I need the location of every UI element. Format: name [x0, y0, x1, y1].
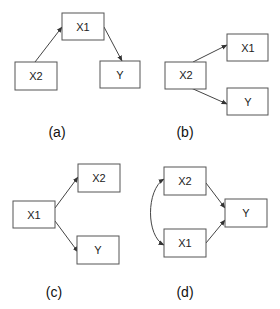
node-label: Y — [244, 96, 252, 108]
caption-c: (c) — [46, 284, 62, 300]
caption-d: (d) — [176, 284, 193, 300]
node-label: X1 — [76, 21, 89, 33]
node-label: X1 — [27, 209, 40, 221]
edge-x1-x2-correlation — [151, 179, 165, 245]
node-x1: X1 — [13, 201, 55, 228]
node-label: X2 — [178, 175, 191, 187]
node-y: Y — [77, 236, 119, 264]
node-label: Y — [116, 69, 124, 81]
node-label: Y — [94, 244, 102, 256]
node-y: Y — [225, 199, 267, 227]
edge-x2-to-y — [191, 88, 227, 104]
node-label: X2 — [92, 172, 105, 184]
node-label: X2 — [179, 69, 192, 81]
node-label: X1 — [178, 237, 191, 249]
node-x2: X2 — [78, 164, 120, 192]
node-x1: X1 — [227, 34, 268, 61]
diagram-b: X2 X1 Y (b) — [165, 34, 268, 140]
edge-x1-to-y — [206, 220, 225, 243]
diagram-d: X2 X1 Y (d) — [151, 167, 268, 300]
caption-a: (a) — [48, 124, 65, 140]
edge-x2-to-x1 — [193, 45, 227, 62]
edge-x1-to-x2 — [55, 177, 78, 208]
node-label: X2 — [29, 70, 42, 82]
node-x2: X2 — [15, 62, 57, 90]
caption-b: (b) — [176, 124, 193, 140]
diagram-a: X1 X2 Y (a) — [15, 13, 140, 140]
node-label: Y — [242, 207, 250, 219]
edge-x1-to-y — [104, 27, 122, 61]
edge-x2-to-x1 — [35, 27, 62, 62]
diagram-c: X1 X2 Y (c) — [13, 164, 120, 300]
node-y: Y — [227, 88, 268, 115]
node-x1: X1 — [164, 229, 206, 257]
node-label: X1 — [241, 42, 254, 54]
node-y: Y — [100, 61, 140, 88]
node-x1: X1 — [62, 13, 104, 40]
causal-diagrams: X1 X2 Y (a) X2 X1 Y (b) — [0, 0, 280, 309]
edge-x1-to-y — [55, 221, 78, 252]
edge-x2-to-y — [206, 183, 225, 208]
node-x2: X2 — [164, 167, 206, 195]
node-x2: X2 — [165, 62, 206, 89]
